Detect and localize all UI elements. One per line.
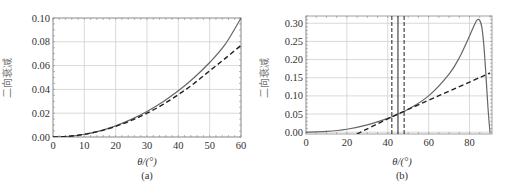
y-axis-label-a: 二向衰减 xyxy=(1,58,13,98)
x-tick-label: 40 xyxy=(383,137,394,148)
y-tick-label: 0.10 xyxy=(285,90,303,101)
x-tick-label: 0 xyxy=(50,140,55,151)
y-tick-label: 0.00 xyxy=(32,132,50,143)
x-tick-label: 50 xyxy=(204,140,215,151)
series-linear-approximation xyxy=(357,73,490,134)
chart-panel-a: 01020304050600.000.020.040.060.080.10 xyxy=(32,13,247,152)
x-tick-label: 60 xyxy=(423,137,434,148)
y-tick-label: 0.15 xyxy=(285,72,303,83)
plot-frame xyxy=(306,16,492,134)
y-axis-label-b: 二向衰减 xyxy=(258,58,270,98)
y-tick-label: 0.30 xyxy=(285,18,303,29)
x-tick-label: 10 xyxy=(79,140,90,151)
y-tick-label: 0.08 xyxy=(32,36,50,47)
x-tick-label: 20 xyxy=(342,137,353,148)
caption-b: (b) xyxy=(396,170,409,182)
y-tick-label: 0.05 xyxy=(285,109,303,120)
x-tick-label: 60 xyxy=(236,140,247,151)
x-tick-label: 80 xyxy=(464,137,475,148)
x-axis-label-b: θ/(°) xyxy=(392,156,412,168)
x-tick-label: 30 xyxy=(142,140,153,151)
y-tick-label: 0.10 xyxy=(32,13,50,24)
y-tick-label: 0.06 xyxy=(32,60,50,71)
y-tick-label: 0.25 xyxy=(285,36,303,47)
x-tick-label: 40 xyxy=(173,140,184,151)
figure: 01020304050600.000.020.040.060.080.10 02… xyxy=(0,0,506,190)
y-tick-label: 0.04 xyxy=(32,84,51,95)
y-tick-label: 0.00 xyxy=(285,127,303,138)
caption-a: (a) xyxy=(141,170,153,182)
x-tick-label: 20 xyxy=(110,140,121,151)
chart-panel-b: 0204060800.000.050.100.150.200.250.30 xyxy=(285,16,492,148)
x-axis-label-a: θ/(°) xyxy=(137,156,157,168)
x-tick-label: 0 xyxy=(303,137,308,148)
y-tick-label: 0.02 xyxy=(32,108,50,119)
y-tick-label: 0.20 xyxy=(285,54,303,65)
